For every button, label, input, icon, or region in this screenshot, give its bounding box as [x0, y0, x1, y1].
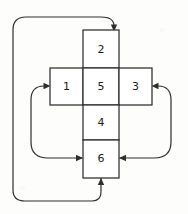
box-middle-right-label: 3 [132, 80, 139, 93]
arrow-head-into-box-bottom [98, 178, 104, 185]
arrow-head-into-box-bottom-left [76, 155, 83, 161]
box-middle-left[interactable]: 1 [50, 68, 83, 105]
box-below-center[interactable]: 4 [83, 105, 119, 140]
box-top-label: 2 [98, 43, 105, 56]
arrow-head-into-box-bottom-right [119, 155, 126, 161]
box-bottom-label: 6 [98, 152, 105, 165]
box-center[interactable]: 5 [83, 68, 119, 105]
flowchart-svg: 2 1 5 3 4 6 [0, 0, 188, 214]
box-middle-right[interactable]: 3 [119, 68, 152, 105]
box-bottom[interactable]: 6 [83, 140, 119, 178]
box-below-center-label: 4 [98, 116, 105, 129]
diagram-canvas: 2 1 5 3 4 6 [0, 0, 188, 214]
box-middle-left-label: 1 [63, 80, 70, 93]
box-top[interactable]: 2 [83, 30, 119, 68]
box-center-label: 5 [98, 80, 105, 93]
